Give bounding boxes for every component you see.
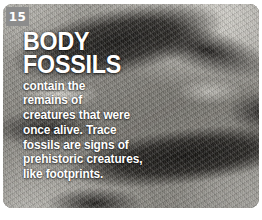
card-body-line: creatures that were <box>23 108 238 123</box>
card-body-line: remains of <box>23 93 238 108</box>
card-body-line: prehistoric creatures, <box>23 152 238 167</box>
card-text-block: BODY FOSSILS contain the remains of crea… <box>23 30 249 182</box>
card-body-line: once alive. Trace <box>23 123 238 138</box>
card-title-line-2: FOSSILS <box>23 53 233 76</box>
number-badge: 15 <box>6 7 29 26</box>
card-body-line: like footprints. <box>23 167 238 182</box>
card-body-line: contain the <box>23 79 238 94</box>
number-badge-label: 15 <box>9 11 27 23</box>
card-body-line: fossils are signs of <box>23 138 238 153</box>
card-title: BODY FOSSILS <box>23 30 233 77</box>
card-body-text: contain the remains of creatures that we… <box>23 79 238 182</box>
fact-card: 15 BODY FOSSILS contain the remains of c… <box>3 4 259 208</box>
